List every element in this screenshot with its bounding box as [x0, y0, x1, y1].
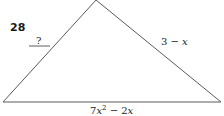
right-side-const: 3 −: [161, 36, 179, 47]
left-side-label: ?: [36, 35, 41, 46]
problem-number: 28: [10, 21, 25, 34]
right-side-label: 3 −x: [161, 36, 188, 47]
triangle: [3, 0, 221, 102]
right-side-var: x: [182, 36, 188, 47]
triangle-diagram: 28 ? 3 −x 7x2 − 2x: [0, 0, 224, 116]
base-label: 7x2 − 2x: [90, 104, 134, 116]
base-var2: x: [128, 105, 134, 116]
base-operator: − 2: [106, 105, 127, 116]
